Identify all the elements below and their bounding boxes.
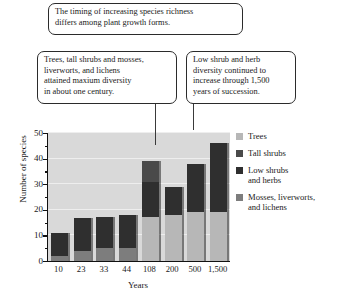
legend-item[interactable]: Tall shrubs	[236, 148, 351, 158]
bar[interactable]	[119, 215, 136, 261]
bar-segment	[119, 215, 136, 248]
bar-segment	[96, 248, 113, 261]
callout-left: Trees, tall shrubs and mosses, liverwort…	[37, 51, 177, 104]
y-tick-label: 0	[25, 257, 43, 266]
bar-segment	[74, 251, 91, 261]
chart-legend: TreesTall shrubsLow shrubs and herbsMoss…	[236, 131, 351, 219]
callout-left-connector-line	[155, 104, 156, 145]
legend-label: Tall shrubs	[248, 148, 286, 158]
callout-left-text: Trees, tall shrubs and mosses, liverwort…	[44, 55, 171, 97]
legend-swatch	[236, 133, 243, 140]
bar-segment	[51, 233, 68, 256]
legend-label: Trees	[248, 131, 267, 141]
bar-chart: Number of species 01020304050 1023334410…	[0, 112, 355, 308]
legend-label: Low shrubs and herbs	[248, 165, 288, 185]
legend-swatch	[236, 150, 243, 157]
bar-segment	[187, 164, 204, 213]
callout-right-connector-line	[193, 104, 194, 130]
callout-top: The timing of increasing species richnes…	[48, 3, 243, 35]
legend-item[interactable]: Trees	[236, 131, 351, 141]
bar-segment	[142, 161, 159, 181]
bar[interactable]	[165, 187, 182, 261]
y-tick-label: 30	[25, 180, 43, 189]
bar-segment	[210, 143, 227, 212]
bar[interactable]	[142, 161, 159, 261]
bar-segment	[165, 215, 182, 261]
callout-top-text: The timing of increasing species richnes…	[55, 7, 237, 28]
legend-item[interactable]: Mosses, liverworts, and lichens	[236, 192, 351, 212]
gridline	[48, 158, 230, 159]
bar[interactable]	[96, 217, 113, 261]
y-tick-label: 20	[25, 205, 43, 214]
bar-segment	[210, 212, 227, 261]
gridline	[48, 132, 230, 133]
bar[interactable]	[74, 218, 91, 262]
bar-segment	[51, 256, 68, 261]
callout-right-text: Low shrub and herb diversity continued t…	[193, 55, 290, 97]
y-tick-label: 40	[25, 154, 43, 163]
bar[interactable]	[187, 164, 204, 261]
bar-segment	[187, 212, 204, 261]
bar[interactable]	[51, 233, 68, 261]
y-axis-title: Number of species	[18, 124, 28, 214]
legend-item[interactable]: Low shrubs and herbs	[236, 165, 351, 185]
plot-area	[47, 133, 230, 262]
legend-swatch	[236, 167, 243, 174]
bar-segment	[74, 218, 91, 251]
bar[interactable]	[210, 143, 227, 261]
x-axis-title: Years	[47, 280, 229, 290]
bar-segment	[119, 248, 136, 261]
bar-segment	[96, 217, 113, 248]
y-tick-label: 10	[25, 231, 43, 240]
x-tick-label: 1,500	[203, 265, 232, 274]
bar-segment	[142, 182, 159, 218]
y-tick-label: 50	[25, 129, 43, 138]
legend-swatch	[236, 194, 243, 201]
bar-segment	[142, 217, 159, 261]
legend-label: Mosses, liverworts, and lichens	[248, 192, 315, 212]
bar-segment	[165, 187, 182, 215]
callout-right: Low shrub and herb diversity continued t…	[186, 51, 296, 104]
